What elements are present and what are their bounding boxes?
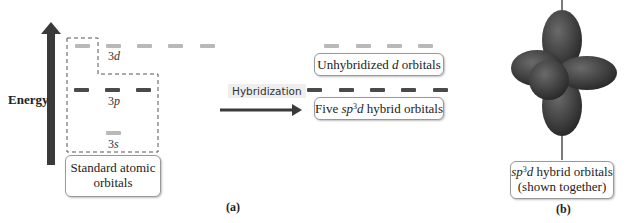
hybrid-orbital-dash (339, 88, 354, 92)
orbital-caption-box: sp3d hybrid orbitals (shown together) (510, 161, 614, 199)
orbital-3d-dash (75, 44, 90, 48)
standard-box-line1: Standard atomic (66, 160, 160, 175)
hybrid-orbital-dash (401, 88, 416, 92)
hybridization-label: Hybridization (228, 84, 306, 98)
orbital-3d-dash (106, 44, 121, 48)
orbital-3p-dash (105, 88, 120, 92)
orbital-3d-dash (168, 44, 183, 48)
unhybridized-d-dash (356, 44, 371, 48)
orbital-3s-dash (106, 131, 121, 135)
panel-a-label: (a) (226, 200, 240, 215)
standard-orbitals-box: Standard atomic orbitals (65, 155, 161, 197)
level-3s-label: 3s (108, 137, 119, 152)
unhybridized-d-dash (324, 44, 339, 48)
hybrid-orbital-dash (370, 88, 385, 92)
hybrid-orbital-dash (307, 88, 322, 92)
orbital-3p-dash (136, 88, 151, 92)
level-3d-label: 3d (108, 49, 120, 64)
unhybridized-d-dash (418, 44, 433, 48)
panel-b-label: (b) (556, 202, 571, 217)
orbital-3p-dash (74, 88, 89, 92)
level-3p-label: 3p (108, 94, 120, 109)
orbital-3d-dash (200, 44, 215, 48)
standard-box-line2: orbitals (66, 175, 160, 190)
unhybridized-d-dash (387, 44, 402, 48)
unhybridized-d-box: Unhybridized d orbitals (314, 53, 444, 76)
hybrid-orbitals-box: Five sp3d hybrid orbitals (314, 97, 444, 120)
hybrid-orbital-dash (433, 88, 448, 92)
orbital-3d-dash (137, 44, 152, 48)
